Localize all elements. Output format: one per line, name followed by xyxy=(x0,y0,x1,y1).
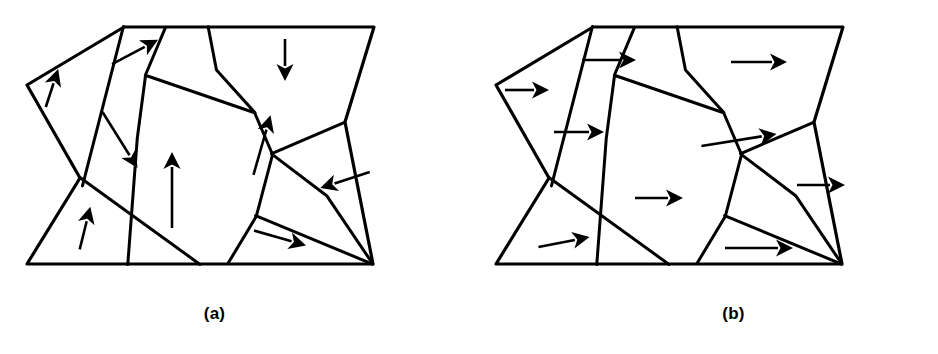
panel-b: (b) xyxy=(469,0,938,354)
figure-container: (a) (b) xyxy=(0,0,938,354)
vector-arrowhead xyxy=(828,177,845,194)
panel-a-diagram xyxy=(0,0,469,300)
panel-a-grain-outline-group xyxy=(27,27,374,264)
grain-outline xyxy=(27,27,374,264)
panel-b-caption: (b) xyxy=(469,300,938,328)
panel-a-caption: (a) xyxy=(0,300,469,328)
panel-b-diagram xyxy=(469,0,938,300)
grain-outline xyxy=(496,27,843,264)
panel-b-grain-outline-group xyxy=(496,27,843,264)
panel-a: (a) xyxy=(0,0,469,354)
